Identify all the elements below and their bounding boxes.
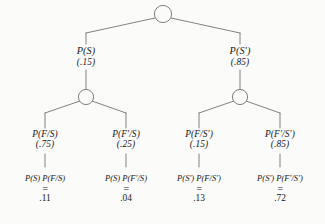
- product-factor2-S-F: P(F/S): [42, 173, 65, 183]
- product-S-Fprime: P(S)P(F′/S) = .04: [105, 168, 147, 203]
- branch-prob-F-given-Sprime: (.15): [190, 139, 208, 149]
- branch-expr-F-given-S: P(F/S): [32, 129, 58, 139]
- branch-prob-S: (.15): [77, 57, 95, 67]
- branch-prob-Fprime-given-S: (.25): [117, 139, 135, 149]
- product-factor2-S-Fprime: P(F′/S): [122, 173, 147, 183]
- product-value-Sprime-Fprime: .72: [257, 194, 303, 204]
- edge-root-to-Sprime: [171, 18, 240, 33]
- branch-label-F-given-Sprime: P(F/S′) (.15): [185, 129, 213, 149]
- product-factor1-Sprime-Fprime: P(S′): [257, 173, 274, 183]
- edge-S-to-Fprime: [92, 101, 126, 113]
- branch-expr-F-given-Sprime: P(F/S′): [185, 129, 213, 139]
- branch-prob-Fprime-given-Sprime: (.85): [271, 139, 289, 149]
- branch-label-Fprime-given-S: P(F′/S) (.25): [112, 129, 140, 149]
- product-factor1-S-Fprime: P(S): [105, 173, 120, 183]
- node-Sprime: [232, 89, 247, 104]
- branch-prob-F-given-S: (.75): [36, 139, 54, 149]
- branch-expr-S: P(S): [77, 45, 96, 56]
- branch-label-Fprime-given-Sprime: P(F′/S′) (.85): [265, 129, 295, 149]
- branch-expr-S-prime: P(S′): [230, 45, 251, 56]
- branch-prob-S-prime: (.85): [231, 57, 249, 67]
- product-value-S-Fprime: .04: [105, 194, 147, 204]
- edge-Sprime-to-Fprime: [246, 101, 280, 113]
- product-factor1-S-F: P(S): [25, 173, 40, 183]
- edge-Sprime-to-F: [199, 101, 234, 113]
- branch-expr-Fprime-given-S: P(F′/S): [112, 129, 140, 139]
- edge-S-to-F: [45, 101, 80, 113]
- branch-label-F-given-S: P(F/S) (.75): [32, 129, 58, 149]
- product-value-S-F: .11: [25, 194, 65, 204]
- product-Sprime-Fprime: P(S′)P(F′/S′) = .72: [257, 168, 303, 203]
- product-S-F: P(S)P(F/S) = .11: [25, 168, 65, 203]
- probability-tree-diagram: P(S) (.15) P(S′) (.85) P(F/S) (.75) P(F′…: [0, 0, 325, 224]
- product-factor1-Sprime-F: P(S′): [177, 173, 194, 183]
- product-factor2-Sprime-Fprime: P(F′/S′): [276, 173, 303, 183]
- branch-expr-Fprime-given-Sprime: P(F′/S′): [265, 129, 295, 139]
- node-root: [154, 5, 171, 22]
- edge-root-to-S: [86, 18, 155, 33]
- product-value-Sprime-F: .13: [177, 194, 221, 204]
- product-factor2-Sprime-F: P(F/S′): [196, 173, 221, 183]
- node-S: [78, 89, 93, 104]
- product-Sprime-F: P(S′)P(F/S′) = .13: [177, 168, 221, 203]
- branch-label-S-prime: P(S′) (.85): [230, 45, 251, 67]
- branch-label-S: P(S) (.15): [77, 45, 96, 67]
